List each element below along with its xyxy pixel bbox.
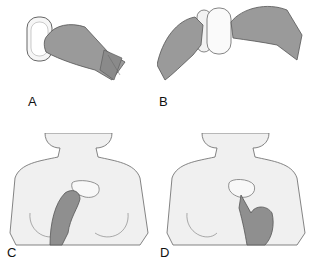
hands-peeling-pad-illustration: [157, 0, 314, 133]
panel-label-b: B: [159, 94, 168, 109]
hand-holding-pad-illustration: [0, 0, 157, 133]
panel-label-c: C: [7, 245, 16, 260]
panel-label-d: D: [160, 245, 169, 260]
panel-a: A: [0, 0, 157, 133]
panel-b: B: [157, 0, 314, 133]
panel-c: C: [0, 133, 157, 266]
pad-placement-chest-illustration: [0, 133, 157, 266]
panel-d: D: [157, 133, 314, 266]
panel-label-a: A: [28, 94, 37, 109]
finger-pressing-pad-illustration: [157, 133, 314, 266]
